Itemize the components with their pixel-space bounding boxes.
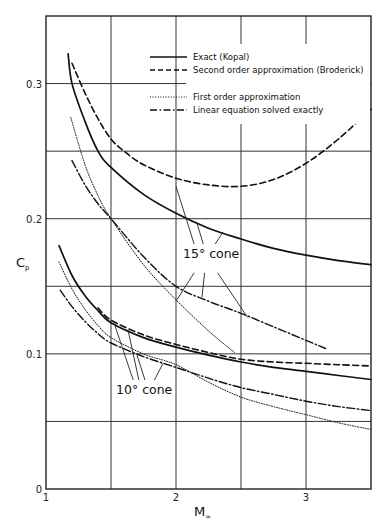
series-line-solid-10deg <box>59 246 371 380</box>
legend-label-exact: Exact (Kopal) <box>193 52 249 62</box>
legend-label-first-order: First order approximation <box>193 92 300 102</box>
leader-line-15deg <box>176 186 196 248</box>
y-tick-label: 0.3 <box>26 79 42 90</box>
x-tick-label: 2 <box>173 492 179 503</box>
leader-line-15deg <box>176 273 194 301</box>
leader-line-15deg <box>218 273 248 318</box>
y-axis-label-subscript: p <box>25 264 30 272</box>
y-tick-label: 0.2 <box>26 214 42 225</box>
x-tick-label: 3 <box>303 492 309 503</box>
legend-label-second-order: Second order approximation (Broderick) <box>193 65 364 75</box>
leader-line-10deg <box>115 325 134 383</box>
legend-label-linear: Linear equation solved exactly <box>193 105 323 115</box>
annotation-10-degree-cone: 10° cone <box>116 382 173 397</box>
annotation-15-degree-cone: 15° cone <box>183 246 240 261</box>
y-tick-label: 0 <box>36 484 42 495</box>
y-axis-label: Cp <box>16 255 30 272</box>
x-tick-label: 1 <box>43 492 49 503</box>
x-axis-label: M∞ <box>194 504 211 521</box>
series-line-dotted-15deg <box>71 117 235 352</box>
leader-line-15deg <box>202 273 205 297</box>
series-line-dashed-10deg <box>98 308 371 366</box>
y-tick-label: 0.1 <box>26 349 42 360</box>
x-axis-label-main: M <box>194 504 205 519</box>
y-axis-label-main: C <box>16 255 25 270</box>
chart-root: 12300.10.20.3 Cp M∞ Exact (Kopal) Second… <box>0 0 382 528</box>
series-line-dashdot-10deg <box>60 290 371 410</box>
x-axis-label-subscript: ∞ <box>205 513 211 521</box>
